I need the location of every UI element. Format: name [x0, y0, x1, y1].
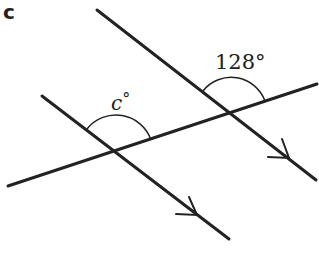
transversal-line: [8, 84, 317, 186]
parallel-lines-diagram: c° 128°: [0, 0, 319, 264]
angle-arc-128: [203, 77, 265, 101]
angle-label-128: 128°: [215, 50, 266, 74]
angle-label-c: c°: [111, 89, 130, 115]
parallel-line-left: [42, 96, 229, 239]
